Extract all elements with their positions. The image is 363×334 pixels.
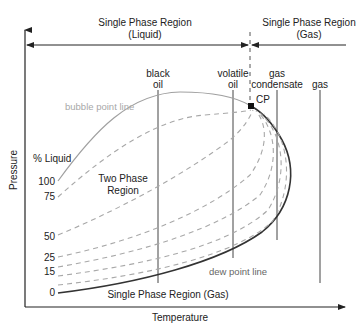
dew-point-label: dew point line (209, 266, 267, 277)
two-phase-label-2: Region (107, 185, 139, 196)
gas-condensate-label-1: gas (269, 68, 285, 79)
critical-point-marker (248, 103, 254, 109)
gas-region-label-2: (Gas) (297, 29, 322, 40)
liquid-percent-title: % Liquid (33, 153, 71, 164)
liquid-percent-0: 0 (49, 287, 55, 298)
liquid-percent-50: 50 (44, 231, 56, 242)
volatile-oil-label-1: volatile (217, 68, 249, 79)
bubble-point-label: bubble point line (65, 101, 134, 112)
two-phase-label-1: Two Phase (98, 173, 148, 184)
liquid-region-label-1: Single Phase Region (98, 17, 191, 28)
liquid-percent-100: 100 (38, 176, 55, 187)
black-oil-label-1: black (146, 68, 170, 79)
volatile-oil-label-2: oil (228, 79, 238, 90)
quality-lines (58, 110, 287, 285)
liquid-percent-75: 75 (44, 191, 56, 202)
critical-point-label: CP (256, 94, 270, 105)
liquid-percent-25: 25 (44, 252, 56, 263)
y-axis-label: Pressure (8, 150, 19, 190)
x-axis-label: Temperature (152, 312, 209, 323)
phase-diagram: CP Single Phase Region (Liquid) Single P… (0, 0, 363, 334)
black-oil-label-2: oil (153, 79, 163, 90)
liquid-region-label-2: (Liquid) (128, 29, 161, 40)
gas-region-label-1: Single Phase Region (262, 17, 355, 28)
liquid-percent-15: 15 (44, 266, 56, 277)
gas-label: gas (312, 79, 328, 90)
gas-bottom-region-label: Single Phase Region (Gas) (107, 289, 228, 300)
gas-condensate-label-2: condensate (251, 79, 303, 90)
